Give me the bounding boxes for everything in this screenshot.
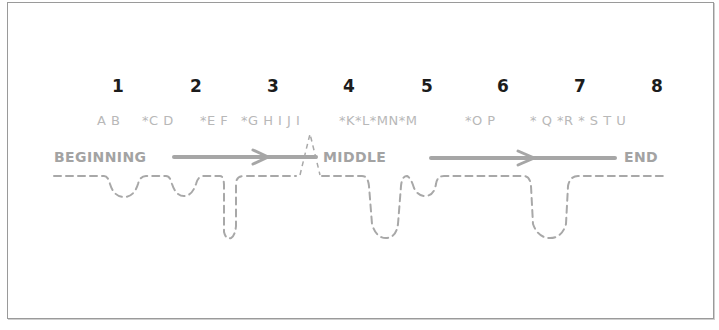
arrow-middle-to-end-icon bbox=[431, 151, 615, 165]
peak-caret-icon bbox=[300, 134, 320, 175]
dashed-narrative-path bbox=[54, 176, 664, 238]
diagram-graphics bbox=[0, 0, 719, 330]
arrow-beginning-to-middle-icon bbox=[174, 150, 316, 164]
